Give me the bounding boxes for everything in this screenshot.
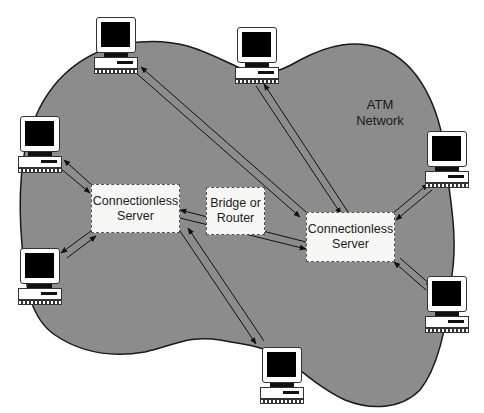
server-left-line2: Server <box>117 209 154 224</box>
bridge-line2: Router <box>217 211 255 226</box>
workstation-icon[interactable] <box>18 248 64 310</box>
bridge-or-router[interactable]: Bridge or Router <box>206 187 265 235</box>
connectionless-server-right[interactable]: Connectionless Server <box>306 212 395 262</box>
workstation-icon[interactable] <box>260 347 306 409</box>
atm-network-diagram: ATM Network Connectionless Server Bridge… <box>0 0 484 413</box>
server-right-line1: Connectionless <box>308 222 393 237</box>
workstation-icon[interactable] <box>94 17 140 79</box>
workstation-icon[interactable] <box>425 276 471 338</box>
server-right-line2: Server <box>332 237 369 252</box>
server-left-line1: Connectionless <box>93 194 178 209</box>
atm-network-label: ATM Network <box>350 97 410 129</box>
cloud-label-line1: ATM <box>350 97 410 113</box>
workstation-icon[interactable] <box>425 131 471 193</box>
connectionless-server-left[interactable]: Connectionless Server <box>91 184 180 233</box>
workstation-icon[interactable] <box>18 116 64 178</box>
workstation-icon[interactable] <box>235 27 281 89</box>
bridge-line1: Bridge or <box>210 196 261 211</box>
cloud-label-line2: Network <box>350 113 410 129</box>
